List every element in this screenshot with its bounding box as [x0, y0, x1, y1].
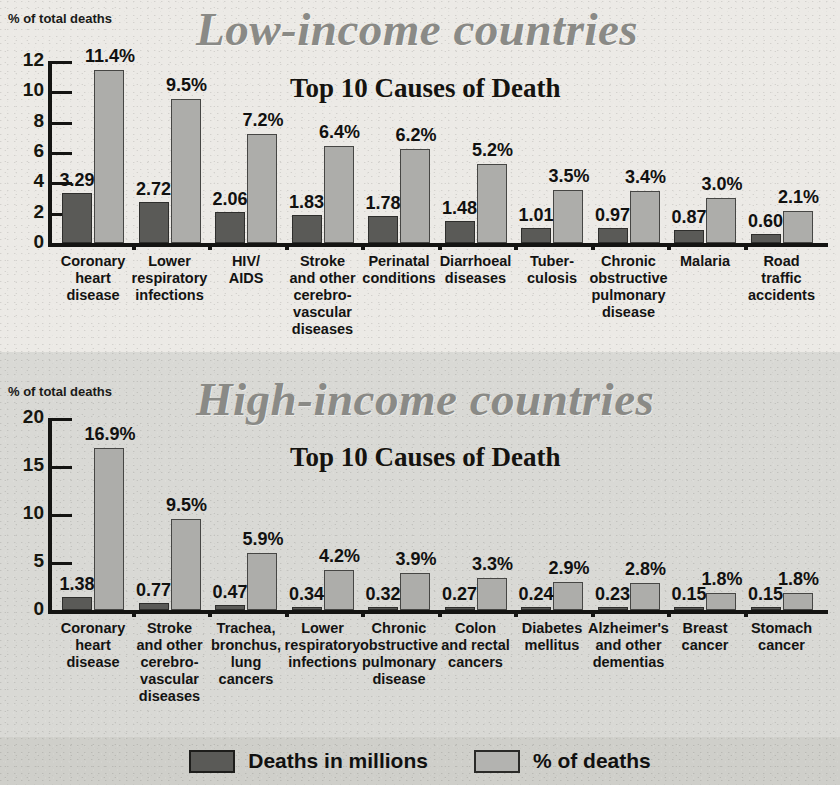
bar-deaths-millions	[521, 607, 551, 610]
bar-value-label-deaths-millions: 0.34	[276, 584, 338, 605]
bar-value-label-deaths-millions: 1.48	[429, 198, 491, 219]
bar-deaths-millions	[674, 230, 704, 243]
x-axis-category-label: Tuber- culosis	[508, 253, 596, 287]
x-axis-group-tick	[285, 243, 289, 250]
x-axis-group-tick	[514, 610, 518, 617]
x-axis-group-tick	[208, 243, 212, 250]
panel-subtitle-low-income: Top 10 Causes of Death	[290, 73, 561, 104]
bar-value-label-deaths-millions: 0.27	[429, 584, 491, 605]
bar-value-label-pct-of-deaths: 9.5%	[156, 495, 218, 516]
bar-deaths-millions	[292, 607, 322, 610]
bar-value-label-pct-of-deaths: 3.4%	[615, 167, 677, 188]
bar-value-label-deaths-millions: 0.77	[123, 580, 185, 601]
legend-label: % of deaths	[533, 749, 651, 773]
x-axis-group-tick	[208, 610, 212, 617]
bar-deaths-millions	[521, 228, 551, 243]
bar-value-label-deaths-millions: 0.60	[735, 211, 797, 232]
bar-value-label-pct-of-deaths: 2.1%	[768, 187, 830, 208]
bar-pct-of-deaths	[171, 99, 201, 243]
legend-band: Deaths in millions% of deaths	[0, 737, 840, 785]
chart-panel-high-income: % of total deaths High-income countries …	[0, 352, 840, 737]
legend-label: Deaths in millions	[248, 749, 428, 773]
x-axis-group-tick	[667, 243, 671, 250]
x-axis-group-tick	[591, 610, 595, 617]
x-axis-category-label: Lower respiratory infections	[279, 620, 367, 671]
bar-value-label-pct-of-deaths: 2.8%	[615, 559, 677, 580]
bar-value-label-deaths-millions: 0.97	[582, 205, 644, 226]
y-axis-tick-label: 20	[2, 406, 44, 428]
panel-subtitle-high-income: Top 10 Causes of Death	[290, 442, 561, 473]
bar-deaths-millions	[215, 212, 245, 243]
y-axis-tick	[52, 418, 72, 421]
chart-panel-low-income: % of total deaths Low-income countries T…	[0, 0, 840, 352]
x-axis-category-label: Trachea, bronchus, lung cancers	[202, 620, 290, 688]
y-axis-tick-label: 8	[2, 110, 44, 132]
legend-item: Deaths in millions	[189, 749, 428, 773]
x-axis-group-tick	[744, 610, 748, 617]
x-axis-category-label: Coronary heart disease	[49, 620, 137, 671]
x-axis-category-label: Stomach cancer	[738, 620, 826, 654]
bar-value-label-deaths-millions: 3.29	[46, 170, 108, 191]
bar-deaths-millions	[368, 607, 398, 610]
bar-value-label-deaths-millions: 1.78	[352, 193, 414, 214]
bar-value-label-deaths-millions: 2.72	[123, 179, 185, 200]
bar-deaths-millions	[62, 193, 92, 243]
y-axis-tick-label: 12	[2, 49, 44, 71]
x-axis-category-label: Chronic obstructive pulmonary disease	[585, 253, 673, 321]
x-axis-category-label: Malaria	[661, 253, 749, 270]
x-axis-group-tick	[591, 243, 595, 250]
legend-swatch-pct-of-deaths	[474, 750, 520, 773]
x-axis-group-tick	[132, 610, 136, 617]
figure-root: % of total deaths Low-income countries T…	[0, 0, 840, 785]
bar-value-label-deaths-millions: 1.83	[276, 192, 338, 213]
y-axis-tick	[52, 514, 72, 517]
x-axis-category-label: Stroke and other cerebro- vascular disea…	[279, 253, 367, 338]
bar-value-label-pct-of-deaths: 3.0%	[691, 174, 753, 195]
bar-value-label-deaths-millions: 1.38	[46, 574, 108, 595]
x-axis-category-label: Stroke and other cerebro- vascular disea…	[126, 620, 214, 705]
bar-deaths-millions	[751, 607, 781, 610]
panel-title-high-income: High-income countries	[196, 372, 654, 426]
bar-deaths-millions	[215, 605, 245, 610]
legend: Deaths in millions% of deaths	[0, 737, 840, 785]
bar-deaths-millions	[139, 603, 169, 610]
x-axis-category-label: Diabetes mellitus	[508, 620, 596, 654]
bar-deaths-millions	[751, 234, 781, 243]
x-axis-group-tick	[285, 610, 289, 617]
bar-deaths-millions	[139, 202, 169, 243]
bar-value-label-pct-of-deaths: 9.5%	[156, 75, 218, 96]
y-axis-tick-label: 4	[2, 170, 44, 192]
bar-deaths-millions	[292, 215, 322, 243]
x-axis-category-label: HIV/ AIDS	[202, 253, 290, 287]
bar-value-label-pct-of-deaths: 7.2%	[232, 110, 294, 131]
bar-value-label-deaths-millions: 0.47	[199, 582, 261, 603]
bar-deaths-millions	[62, 597, 92, 610]
bar-value-label-pct-of-deaths: 2.9%	[538, 558, 600, 579]
x-axis-category-label: Road traffic accidents	[738, 253, 826, 304]
bar-value-label-pct-of-deaths: 3.9%	[385, 549, 447, 570]
bar-value-label-pct-of-deaths: 5.2%	[462, 140, 524, 161]
x-axis-category-label: Coronary heart disease	[49, 253, 137, 304]
x-axis-category-label: Breast cancer	[661, 620, 749, 654]
bar-value-label-pct-of-deaths: 3.3%	[462, 554, 524, 575]
y-axis-tick-label: 15	[2, 454, 44, 476]
bar-deaths-millions	[598, 607, 628, 610]
bar-value-label-deaths-millions: 0.32	[352, 584, 414, 605]
x-axis-group-tick	[438, 243, 442, 250]
y-axis-caption-low-income: % of total deaths	[8, 11, 112, 26]
bar-value-label-pct-of-deaths: 6.4%	[309, 122, 371, 143]
bar-value-label-deaths-millions: 0.24	[505, 584, 567, 605]
x-axis-group-tick	[438, 610, 442, 617]
y-axis-tick-label: 2	[2, 201, 44, 223]
bar-value-label-pct-of-deaths: 3.5%	[538, 166, 600, 187]
panel-title-low-income: Low-income countries	[196, 2, 638, 56]
x-axis-category-label: Chronic obstructive pulmonary disease	[355, 620, 443, 688]
x-axis-category-label: Lower respiratory infections	[126, 253, 214, 304]
bar-value-label-deaths-millions: 0.23	[582, 584, 644, 605]
x-axis-category-label: Diarrhoeal diseases	[432, 253, 520, 287]
x-axis-category-label: Perinatal conditions	[355, 253, 443, 287]
bar-deaths-millions	[598, 228, 628, 243]
y-axis-tick	[52, 562, 72, 565]
y-axis-tick	[52, 122, 72, 125]
y-axis-tick	[52, 91, 72, 94]
